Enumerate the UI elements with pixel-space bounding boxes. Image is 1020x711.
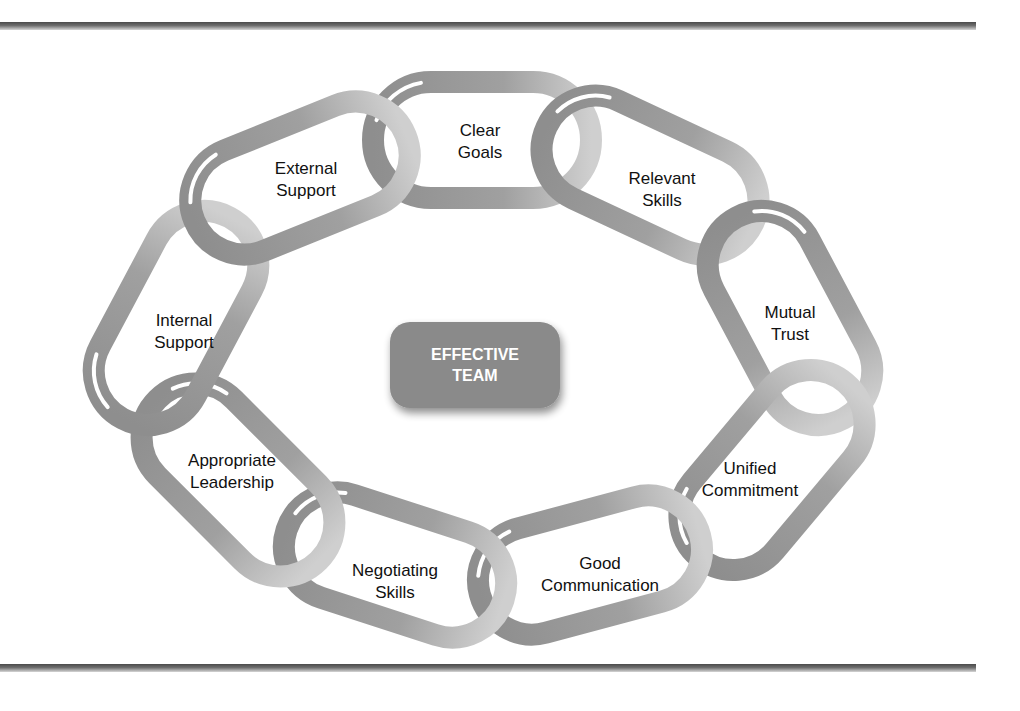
link-label-unified-commitment-line1: Unified — [724, 459, 777, 478]
link-label-relevant-skills-line2: Skills — [642, 191, 682, 210]
link-label-negotiating-skills-line1: Negotiating — [352, 561, 438, 580]
center-label-line2: TEAM — [452, 367, 497, 384]
link-label-clear-goals-line2: Goals — [458, 143, 502, 162]
link-label-negotiating-skills-line2: Skills — [375, 583, 415, 602]
link-label-appropriate-leadership-line1: Appropriate — [188, 451, 276, 470]
link-label-mutual-trust-line1: Mutual — [764, 303, 815, 322]
link-label-appropriate-leadership-line2: Leadership — [190, 473, 274, 492]
chain-diagram: ClearGoalsRelevantSkillsMutualTrustUnifi… — [0, 0, 1020, 711]
link-label-external-support-line2: Support — [276, 181, 336, 200]
link-label-good-communication-line1: Good — [579, 554, 621, 573]
center-label-line1: EFFECTIVE — [431, 346, 519, 363]
link-label-internal-support-line1: Internal — [156, 311, 213, 330]
link-label-external-support-line1: External — [275, 159, 337, 178]
link-label-unified-commitment-line2: Commitment — [702, 481, 799, 500]
link-label-good-communication-line2: Communication — [541, 576, 659, 595]
center-box — [390, 322, 560, 408]
link-label-mutual-trust-line2: Trust — [771, 325, 809, 344]
link-label-internal-support-line2: Support — [154, 333, 214, 352]
link-label-clear-goals-line1: Clear — [460, 121, 501, 140]
link-label-relevant-skills-line1: Relevant — [628, 169, 695, 188]
